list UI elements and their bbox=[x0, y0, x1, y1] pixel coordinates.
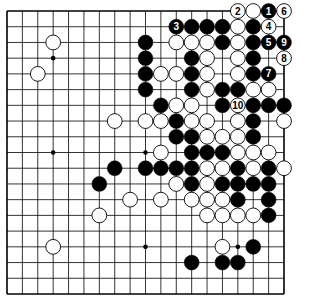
black-stone-icon bbox=[261, 161, 276, 176]
black-stone bbox=[138, 51, 153, 66]
white-stone-icon bbox=[246, 145, 261, 160]
black-stone-icon bbox=[246, 114, 261, 129]
white-stone-icon bbox=[230, 51, 245, 66]
white-stone-icon bbox=[153, 145, 168, 160]
black-stone-icon bbox=[215, 82, 230, 97]
white-stone bbox=[200, 192, 215, 207]
white-stone bbox=[230, 145, 245, 160]
white-stone-icon bbox=[230, 114, 245, 129]
black-stone bbox=[200, 19, 215, 34]
white-stone-icon bbox=[200, 192, 215, 207]
star-point-icon bbox=[51, 56, 56, 61]
black-stone-icon bbox=[215, 19, 230, 34]
black-stone bbox=[261, 161, 276, 176]
white-stone-icon bbox=[153, 114, 168, 129]
white-stone bbox=[230, 35, 245, 50]
star-point-icon bbox=[143, 245, 148, 250]
white-stone-icon bbox=[184, 35, 199, 50]
black-stone-icon bbox=[215, 35, 230, 50]
move-number: 9 bbox=[281, 37, 287, 48]
white-stone bbox=[200, 35, 215, 50]
white-stone bbox=[215, 239, 230, 254]
white-stone bbox=[153, 66, 168, 81]
move-number: 8 bbox=[281, 53, 287, 64]
black-stone-icon bbox=[184, 177, 199, 192]
white-stone bbox=[184, 98, 199, 113]
black-stone bbox=[246, 35, 261, 50]
black-stone-icon bbox=[261, 177, 276, 192]
black-stone-icon bbox=[230, 82, 245, 97]
white-stone bbox=[200, 114, 215, 129]
black-stone-icon bbox=[184, 19, 199, 34]
white-stone bbox=[246, 145, 261, 160]
white-stone bbox=[200, 208, 215, 223]
white-stone bbox=[230, 208, 245, 223]
black-stone bbox=[153, 161, 168, 176]
black-stone bbox=[246, 177, 261, 192]
white-stone-icon bbox=[215, 192, 230, 207]
white-stone-icon bbox=[169, 35, 184, 50]
white-stone bbox=[169, 98, 184, 113]
black-stone-icon bbox=[184, 255, 199, 270]
black-stone-icon bbox=[138, 82, 153, 97]
black-stone-icon bbox=[261, 98, 276, 113]
white-stone-icon bbox=[215, 161, 230, 176]
white-stone bbox=[46, 239, 61, 254]
white-stone bbox=[230, 19, 245, 34]
white-stone-icon bbox=[246, 161, 261, 176]
white-stone-icon bbox=[230, 145, 245, 160]
white-stone bbox=[246, 4, 261, 19]
white-stone bbox=[246, 161, 261, 176]
black-stone bbox=[261, 208, 276, 223]
white-stone-icon bbox=[215, 208, 230, 223]
black-stone-icon bbox=[184, 145, 199, 160]
white-stone-icon bbox=[215, 129, 230, 144]
black-stone bbox=[184, 19, 199, 34]
white-stone-icon bbox=[277, 114, 292, 129]
white-stone-icon bbox=[246, 82, 261, 97]
white-stone-icon bbox=[169, 66, 184, 81]
white-stone bbox=[200, 82, 215, 97]
white-stone-icon bbox=[200, 66, 215, 81]
black-stone: 1 bbox=[261, 4, 276, 19]
black-stone-icon bbox=[92, 177, 107, 192]
white-stone: 6 bbox=[277, 4, 292, 19]
white-stone-icon bbox=[184, 98, 199, 113]
black-stone-icon bbox=[230, 161, 245, 176]
black-stone bbox=[230, 177, 245, 192]
black-stone-icon bbox=[184, 51, 199, 66]
white-stone-icon bbox=[200, 82, 215, 97]
black-stone-icon bbox=[246, 177, 261, 192]
white-stone bbox=[184, 114, 199, 129]
black-stone bbox=[277, 98, 292, 113]
black-stone-icon bbox=[184, 66, 199, 81]
black-stone bbox=[215, 177, 230, 192]
black-stone bbox=[107, 161, 122, 176]
black-stone-icon bbox=[200, 145, 215, 160]
white-stone-icon bbox=[92, 208, 107, 223]
black-stone-icon bbox=[138, 161, 153, 176]
white-stone: 8 bbox=[277, 51, 292, 66]
black-stone-icon bbox=[230, 192, 245, 207]
white-stone bbox=[277, 161, 292, 176]
white-stone bbox=[200, 66, 215, 81]
black-stone bbox=[230, 82, 245, 97]
white-stone: 4 bbox=[261, 19, 276, 34]
move-number: 5 bbox=[266, 37, 272, 48]
white-stone-icon bbox=[138, 114, 153, 129]
white-stone bbox=[215, 161, 230, 176]
black-stone bbox=[230, 255, 245, 270]
black-stone bbox=[246, 239, 261, 254]
white-stone bbox=[215, 208, 230, 223]
white-stone bbox=[261, 145, 276, 160]
white-stone bbox=[169, 177, 184, 192]
move-number: 10 bbox=[232, 100, 244, 111]
black-stone-icon bbox=[246, 51, 261, 66]
black-stone: 7 bbox=[261, 66, 276, 81]
white-stone-icon bbox=[230, 129, 245, 144]
black-stone-icon bbox=[215, 145, 230, 160]
white-stone bbox=[123, 192, 138, 207]
move-number: 3 bbox=[173, 21, 179, 32]
white-stone-icon bbox=[153, 66, 168, 81]
black-stone bbox=[215, 82, 230, 97]
